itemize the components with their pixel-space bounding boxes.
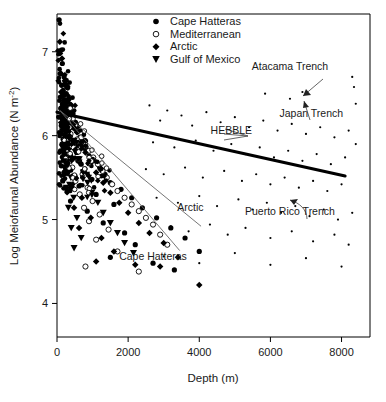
data-point <box>344 156 346 158</box>
data-point <box>80 183 85 188</box>
data-point <box>104 178 109 183</box>
data-point <box>276 130 278 132</box>
data-point <box>353 86 355 88</box>
data-point <box>170 225 172 227</box>
data-point <box>291 123 293 125</box>
x-axis-title: Depth (m) <box>187 372 238 384</box>
x-tick-label: 6000 <box>258 346 282 358</box>
data-point <box>289 98 291 100</box>
data-point <box>291 230 293 232</box>
data-point <box>158 232 163 237</box>
data-point <box>150 222 155 227</box>
y-tick-label: 4 <box>42 297 48 309</box>
data-point <box>173 146 175 148</box>
data-point <box>326 190 328 192</box>
data-point <box>68 198 73 203</box>
data-point <box>340 265 342 267</box>
data-point <box>61 47 66 52</box>
scatter-plot-figure: 02000400060008000 4567 Depth (m) Log Mei… <box>0 0 386 402</box>
data-point <box>234 116 236 118</box>
data-point <box>348 130 350 132</box>
data-point <box>202 176 204 178</box>
data-point <box>58 21 63 26</box>
y-tick-label: 6 <box>42 130 48 142</box>
data-point <box>108 255 113 260</box>
data-point <box>122 230 127 235</box>
annotation-atacama-trench: Atacama Trench <box>252 60 329 72</box>
data-point <box>81 205 86 210</box>
data-point <box>262 119 264 121</box>
data-point <box>154 215 159 220</box>
annotation-japan-trench: Japan Trench <box>279 107 343 119</box>
data-point <box>197 249 202 254</box>
data-point <box>182 235 187 240</box>
data-point <box>155 197 157 199</box>
data-point <box>94 237 99 242</box>
data-point <box>337 218 339 220</box>
legend-label: Mediterranean <box>170 28 241 40</box>
data-point <box>241 180 243 182</box>
x-tick-label: 8000 <box>329 346 353 358</box>
data-point <box>287 150 289 152</box>
data-point <box>301 160 303 162</box>
data-point <box>145 168 147 170</box>
data-point <box>68 106 73 111</box>
data-point <box>68 151 73 156</box>
data-point <box>312 180 314 182</box>
data-point <box>269 264 271 266</box>
data-point <box>301 91 303 93</box>
data-point <box>298 187 300 189</box>
data-point <box>351 212 353 214</box>
y-axis-title: Log Meiofaunal Abundance (N m-2) <box>7 87 21 266</box>
data-point <box>136 209 141 214</box>
data-point <box>209 223 211 225</box>
data-point <box>234 252 236 254</box>
y-tick-label: 7 <box>42 46 48 58</box>
data-point <box>355 103 357 105</box>
data-point <box>143 215 148 220</box>
data-point <box>136 269 141 274</box>
data-point <box>316 153 318 155</box>
data-point <box>237 198 239 200</box>
y-tick-label: 5 <box>42 214 48 226</box>
legend-label: Arctic <box>170 40 198 52</box>
data-point <box>180 114 182 116</box>
data-point <box>264 93 266 95</box>
x-tick-label: 4000 <box>187 346 211 358</box>
data-point <box>230 143 232 145</box>
data-point <box>153 19 159 25</box>
data-point <box>244 227 246 229</box>
x-tick-label: 2000 <box>116 346 140 358</box>
data-point <box>255 173 257 175</box>
data-point <box>148 104 150 106</box>
data-point <box>159 119 161 121</box>
data-point <box>198 195 200 197</box>
data-point <box>101 220 106 225</box>
data-point <box>340 183 342 185</box>
data-point <box>330 163 332 165</box>
data-point <box>90 198 95 203</box>
data-point <box>198 262 200 264</box>
data-point <box>115 188 120 193</box>
data-point <box>122 195 127 200</box>
data-point <box>92 185 97 190</box>
data-point <box>227 234 229 236</box>
data-point <box>56 115 61 120</box>
annotation-hebble: HEBBLE <box>211 124 252 136</box>
data-point <box>223 170 225 172</box>
data-point <box>305 133 307 135</box>
data-point <box>152 141 154 143</box>
data-point <box>355 143 357 145</box>
data-point <box>166 109 168 111</box>
data-point <box>129 202 134 207</box>
data-point <box>216 205 218 207</box>
legend-label: Gulf of Mexico <box>170 53 240 65</box>
data-point <box>57 134 62 139</box>
data-point <box>284 176 286 178</box>
data-point <box>94 192 99 197</box>
data-point <box>312 240 314 242</box>
data-point <box>82 167 87 172</box>
data-point <box>57 67 62 72</box>
data-point <box>348 244 350 246</box>
annotation-puerto-rico-trench: Puerto Rico Trench <box>245 205 335 217</box>
